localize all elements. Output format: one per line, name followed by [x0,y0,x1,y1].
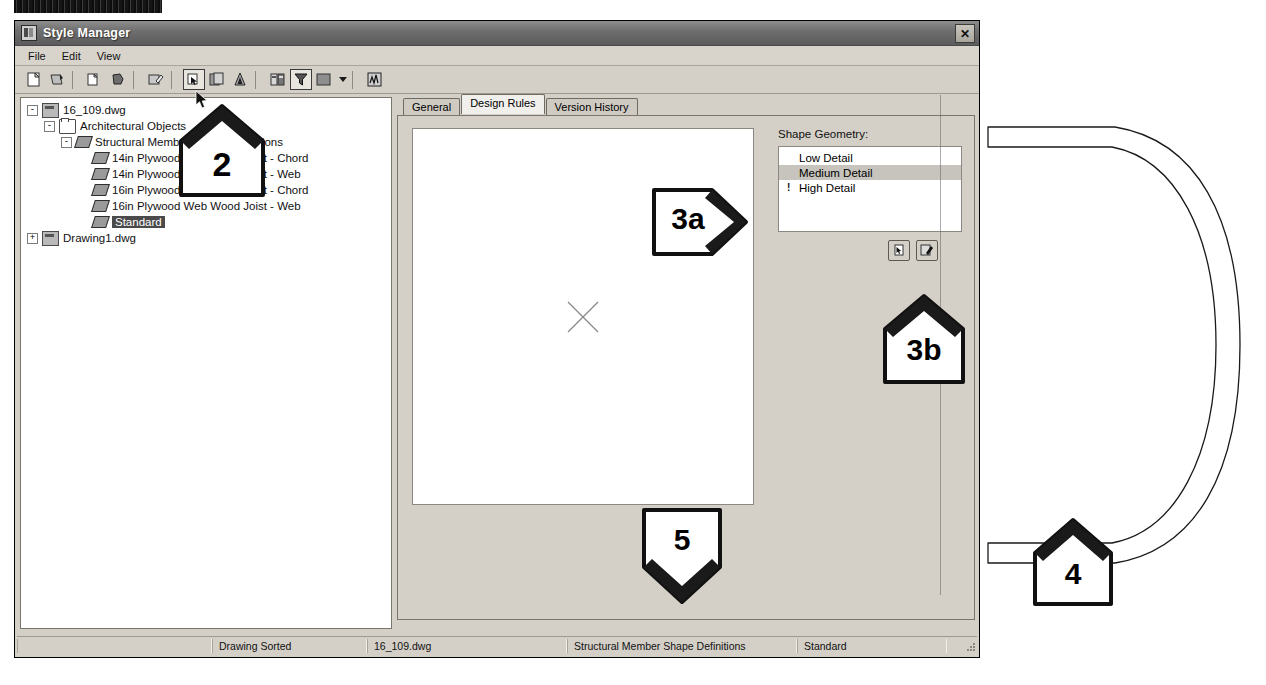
toolbar-separator [255,71,263,89]
shape-icon [91,216,110,228]
dialog-body: -16_109.dwg-Architectural Objects-Struct… [15,94,979,660]
purge-style-icon[interactable] [206,69,228,90]
list-item-label: High Detail [799,182,855,194]
tree-item-label: Architectural Objects [80,120,186,132]
collapse-toggle-icon[interactable]: - [44,121,55,132]
toolbar-separator [352,71,360,89]
status-cell-style: Standard [797,639,947,653]
shape-preview-pane[interactable] [412,128,754,505]
chevron-down-icon[interactable] [336,69,348,90]
set-from-icon[interactable] [229,69,251,90]
callout-3a: 3a [650,186,750,258]
toolbar-separator [72,71,80,89]
open-drawing-icon[interactable] [46,69,68,90]
shape-geometry-list[interactable]: Low Detail Medium Detail ! High Detail [778,146,962,232]
close-icon[interactable]: ✕ [955,24,975,43]
tab-general[interactable]: General [403,98,460,116]
filter-style-icon[interactable] [290,69,312,90]
tree-item-label: 16_109.dwg [63,104,126,116]
color-swatch-icon[interactable] [313,69,335,90]
status-cell-category: Structural Member Shape Definitions [567,639,797,653]
menu-item-view[interactable]: View [90,48,128,64]
window-title: Style Manager [43,26,130,40]
expand-toggle-icon[interactable]: + [27,233,38,244]
toolbar-separator [171,71,179,89]
x-marker-icon [564,298,602,336]
new-style-icon[interactable] [183,69,205,90]
callout-5: 5 [641,507,723,605]
list-item-label: Low Detail [799,152,853,164]
toolbar [15,66,979,94]
callout-label: 4 [1032,557,1114,591]
shape-geometry-label: Shape Geometry: [778,128,868,140]
callout-label: 2 [178,145,266,184]
menu-bar: File Edit View [15,46,979,66]
shape-icon [74,136,93,148]
list-item-label: Medium Detail [799,167,873,179]
geometry-button-group [888,240,938,261]
status-bar: Drawing Sorted 16_109.dwg Structural Mem… [17,636,977,655]
tab-strip: General Design Rules Version History [397,97,975,116]
tree-item[interactable]: 16in Plywood Web Wood Joist - Web [27,198,391,214]
folder-icon [59,119,76,134]
style-manager-dialog: Style Manager ✕ File Edit View [14,20,980,658]
tab-design-rules[interactable]: Design Rules [461,94,544,114]
tree-item[interactable]: +Drawing1.dwg [27,230,391,246]
callout-4: 4 [1032,517,1114,607]
style-manager-icon [21,25,37,41]
menu-item-file[interactable]: File [21,48,53,64]
copy-style-icon[interactable] [84,69,106,90]
shape-icon [91,184,110,196]
toggle-view-icon[interactable] [267,69,289,90]
tree-item-label: Standard [112,216,165,228]
list-item[interactable]: Medium Detail [779,165,961,180]
drawing-icon [42,103,59,118]
status-cell-sort: Drawing Sorted [212,639,367,653]
callout-label: 5 [641,523,723,557]
list-item[interactable]: ! High Detail [779,180,961,195]
callout-2: 2 [178,103,266,198]
edit-style-icon[interactable] [145,69,167,90]
callout-label: 3b [882,333,966,367]
shape-icon [91,168,110,180]
tree-item-label: 16in Plywood Web Wood Joist - Web [112,200,301,212]
new-drawing-icon[interactable] [23,69,45,90]
menu-item-edit[interactable]: Edit [55,48,88,64]
resize-grip[interactable] [963,639,977,653]
viewer-icon[interactable] [364,69,386,90]
tree-item[interactable]: Standard [27,214,391,230]
list-item[interactable]: Low Detail [779,150,961,165]
tree-item-label: Drawing1.dwg [63,232,136,244]
collapse-toggle-icon[interactable]: - [61,137,72,148]
callout-3b: 3b [882,293,966,385]
collapse-toggle-icon[interactable]: - [27,105,38,116]
status-cell-drawing: 16_109.dwg [367,639,567,653]
toolbar-separator [133,71,141,89]
edit-shape-icon[interactable] [916,240,938,261]
callout-label: 3a [638,202,738,236]
title-bar: Style Manager ✕ [15,21,979,46]
cropped-header-strip [14,0,162,13]
shape-icon [91,200,110,212]
paste-style-icon[interactable] [107,69,129,90]
status-cell-empty [17,639,212,653]
geometry-marker: ! [787,182,790,193]
tab-version-history[interactable]: Version History [546,98,638,116]
drawing-icon [42,231,59,246]
shape-icon [91,152,110,164]
add-shape-icon[interactable] [888,240,910,261]
